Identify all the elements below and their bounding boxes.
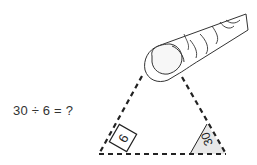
pointing-finger-icon xyxy=(145,14,248,82)
fact-triangle-diagram: 6 30 xyxy=(0,0,257,165)
